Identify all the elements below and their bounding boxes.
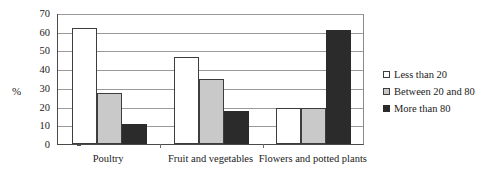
- legend-label: Between 20 and 80: [394, 86, 475, 98]
- legend-swatch-icon: [383, 105, 390, 112]
- x-axis-tick-mark: [160, 144, 161, 148]
- y-axis-tick-label: 20: [40, 103, 51, 113]
- legend-item[interactable]: More than 80: [383, 100, 499, 117]
- y-axis-tick-label: 70: [40, 9, 51, 19]
- bar[interactable]: [97, 93, 122, 144]
- legend-label: Less than 20: [394, 69, 447, 81]
- bar-group: [72, 14, 147, 144]
- y-axis-tick-mark: [77, 145, 81, 146]
- bar[interactable]: [301, 108, 326, 144]
- x-axis-category-label: Fruit and vegetables: [168, 152, 253, 165]
- chart-legend: Less than 20Between 20 and 80More than 8…: [383, 66, 499, 117]
- bar[interactable]: [72, 28, 97, 144]
- y-axis-title: %: [12, 86, 21, 97]
- bar[interactable]: [276, 108, 301, 144]
- y-axis-tick-label: 30: [40, 84, 51, 94]
- plot-area: [57, 14, 364, 145]
- legend-item[interactable]: Between 20 and 80: [383, 83, 499, 100]
- bar[interactable]: [122, 124, 147, 144]
- bar-chart-figure: % 010203040506070 PoultryFruit and veget…: [0, 0, 502, 187]
- x-axis-category-label: Poultry: [93, 152, 124, 165]
- y-axis-tick-label: 40: [40, 65, 51, 75]
- bar[interactable]: [174, 57, 199, 144]
- bar[interactable]: [326, 30, 351, 144]
- y-axis-tick-label: 60: [40, 28, 51, 38]
- legend-label: More than 80: [394, 103, 451, 115]
- y-axis-tick-label: 50: [40, 46, 51, 56]
- legend-swatch-icon: [383, 71, 390, 78]
- y-axis-tick-labels: 010203040506070: [24, 9, 50, 144]
- bars-layer: [58, 14, 363, 144]
- legend-item[interactable]: Less than 20: [383, 66, 499, 83]
- bar[interactable]: [199, 79, 224, 144]
- y-axis-tick-label: 10: [40, 121, 51, 131]
- x-axis-category-label: Flowers and potted plants: [259, 152, 367, 165]
- bar[interactable]: [224, 111, 249, 144]
- x-axis-category-labels: PoultryFruit and vegetablesFlowers and p…: [57, 152, 364, 170]
- legend-swatch-icon: [383, 88, 390, 95]
- x-axis-tick-mark: [263, 144, 264, 148]
- y-axis-tick-label: 0: [45, 140, 50, 150]
- bar-group: [174, 14, 249, 144]
- bar-group: [276, 14, 351, 144]
